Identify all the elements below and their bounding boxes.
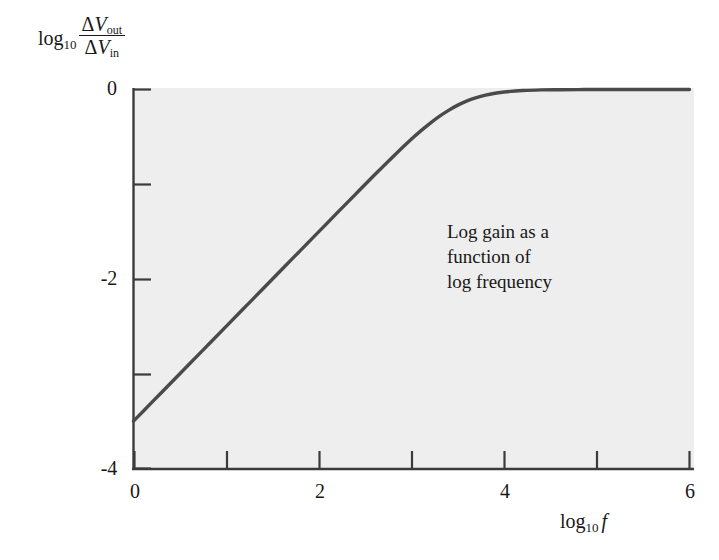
x-tick-label-6: 6 [676, 481, 704, 501]
y-axis-label: log10 ΔVout ΔVin [38, 14, 125, 57]
x-axis-label: log10f [560, 510, 607, 533]
plot-annotation-line-1: Log gain as a [447, 219, 552, 244]
x-tick-label-0: 0 [121, 481, 149, 501]
y-tick-label-0: 0 [98, 78, 126, 98]
figure-bode-plot: log10 ΔVout ΔVin log10f 0 -2 -4 0 2 4 6 … [0, 0, 719, 560]
y-axis-label-denominator: ΔVin [82, 36, 122, 57]
y-tick-label-m4: -4 [92, 458, 126, 478]
y-tick-label-m2: -2 [92, 268, 126, 288]
y-axis-label-log: log10 [38, 14, 77, 48]
plot-annotation-line-3: log frequency [447, 269, 552, 294]
plot-annotation: Log gain as a function of log frequency [447, 219, 552, 294]
x-tick-label-2: 2 [306, 481, 334, 501]
plot-area-background [133, 88, 694, 470]
y-axis-label-fraction: ΔVout ΔVin [79, 14, 125, 57]
x-tick-label-4: 4 [491, 481, 519, 501]
y-axis-label-numerator: ΔVout [79, 14, 125, 36]
plot-annotation-line-2: function of [447, 244, 552, 269]
